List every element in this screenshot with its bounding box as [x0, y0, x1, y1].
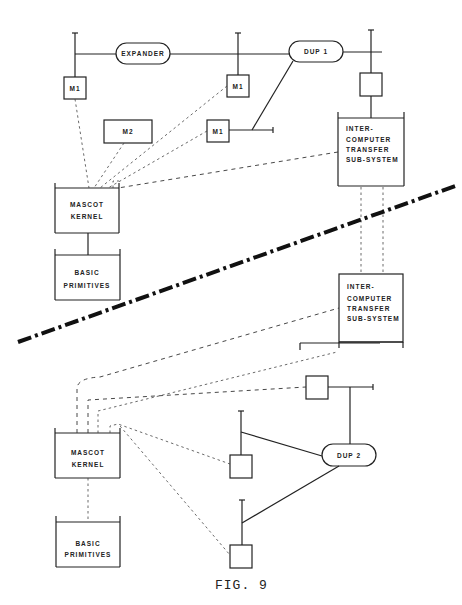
- figure-caption: FIG. 9: [215, 578, 268, 593]
- svg-text:SUB-SYSTEM: SUB-SYSTEM: [346, 156, 399, 163]
- dup2-node: DUP 2: [241, 432, 376, 523]
- m1-label: M1: [69, 85, 80, 92]
- dup1-label: DUP 1: [304, 48, 328, 55]
- svg-text:PRIMITIVES: PRIMITIVES: [64, 282, 111, 289]
- m1-module-lower: M1: [207, 120, 273, 142]
- svg-text:BASIC: BASIC: [74, 269, 99, 276]
- svg-text:COMPUTER: COMPUTER: [346, 136, 391, 143]
- svg-text:BASIC: BASIC: [75, 540, 100, 547]
- expander-label: EXPANDER: [121, 50, 165, 57]
- m1-module-left: M1: [64, 77, 86, 99]
- m2-module: M2: [104, 120, 152, 143]
- expander-node: EXPANDER: [116, 43, 170, 64]
- module-bottom-upper: [230, 411, 252, 478]
- ict-subsystem-top: INTER- COMPUTER TRANSFER SUB-SYSTEM: [338, 112, 404, 186]
- svg-text:TRANSFER: TRANSFER: [346, 146, 389, 153]
- diagram-canvas: EXPANDER DUP 1 M1 M1 M1 M2 INTER-: [0, 0, 462, 605]
- m2-label: M2: [122, 128, 133, 135]
- module-bottom-lower: [230, 500, 252, 568]
- ict-subsystem-bottom: INTER- COMPUTER TRANSFER SUB-SYSTEM: [339, 274, 403, 348]
- dup2-label: DUP 2: [337, 452, 361, 459]
- svg-text:MASCOT: MASCOT: [71, 449, 105, 456]
- svg-text:MASCOT: MASCOT: [70, 201, 104, 208]
- svg-text:INTER-: INTER-: [347, 283, 375, 290]
- svg-text:PRIMITIVES: PRIMITIVES: [65, 551, 112, 558]
- svg-text:COMPUTER: COMPUTER: [347, 295, 392, 302]
- svg-text:KERNEL: KERNEL: [71, 213, 104, 220]
- m1-module-middle: M1: [227, 75, 249, 97]
- mascot-kernel-top: MASCOT KERNEL: [55, 183, 119, 255]
- inter-computer-link: [361, 187, 383, 274]
- basic-primitives-bottom: BASIC PRIMITIVES: [56, 516, 120, 567]
- svg-text:KERNEL: KERNEL: [72, 461, 105, 468]
- mascot-kernel-bottom: MASCOT KERNEL: [55, 428, 120, 478]
- svg-text:TRANSFER: TRANSFER: [347, 305, 390, 312]
- svg-text:SUB-SYSTEM: SUB-SYSTEM: [347, 315, 400, 322]
- basic-primitives-top: BASIC PRIMITIVES: [55, 249, 120, 300]
- ict-channel-top: [360, 73, 382, 118]
- m1-label: M1: [212, 128, 223, 135]
- svg-text:INTER-: INTER-: [346, 125, 374, 132]
- m1-label: M1: [232, 83, 243, 90]
